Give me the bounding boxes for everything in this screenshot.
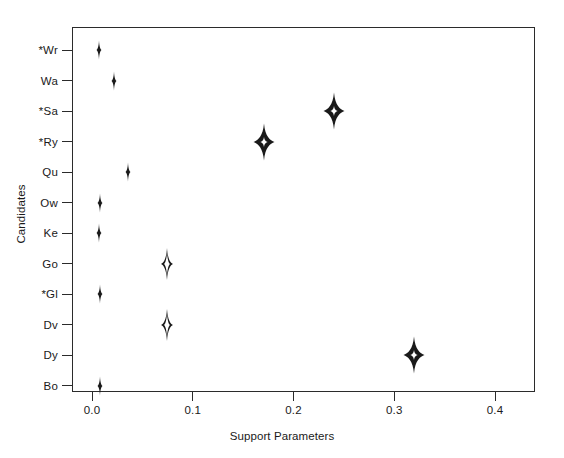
data-point-marker xyxy=(152,306,182,344)
y-axis-tick xyxy=(62,263,72,264)
y-axis-tick xyxy=(62,355,72,356)
data-point-marker xyxy=(85,282,115,307)
data-point-marker xyxy=(99,68,129,93)
y-axis-title: Candidates xyxy=(15,159,27,269)
y-axis-tick xyxy=(62,385,72,386)
data-point-marker xyxy=(152,245,182,283)
data-point-marker xyxy=(85,190,115,215)
y-axis-tick-label: Ke xyxy=(44,227,58,239)
x-axis-tick-label: 0.2 xyxy=(285,404,302,416)
y-axis-tick-label: *Gl xyxy=(41,288,58,300)
support-parameters-scatter-chart: *WrWa*Sa*RyQuOwKeGo*GlDvDyBo 0.00.10.20.… xyxy=(0,0,564,458)
data-point-marker xyxy=(85,373,115,398)
x-axis-title: Support Parameters xyxy=(0,430,564,442)
y-axis-tick-label: Dv xyxy=(44,319,58,331)
x-axis-tick xyxy=(394,392,395,401)
y-axis-tick xyxy=(62,111,72,112)
y-axis-tick-label: Ow xyxy=(40,197,58,209)
y-axis-tick xyxy=(62,172,72,173)
y-axis-tick-label: Dy xyxy=(44,349,58,361)
x-axis-tick xyxy=(495,392,496,401)
data-point-marker xyxy=(319,90,349,133)
plot-frame xyxy=(72,27,535,392)
x-axis-tick xyxy=(293,392,294,401)
y-axis-tick xyxy=(62,294,72,295)
y-axis-tick xyxy=(62,80,72,81)
x-axis-tick-label: 0.1 xyxy=(184,404,201,416)
data-point-marker xyxy=(84,38,114,63)
y-axis-tick-label: Bo xyxy=(44,380,58,392)
x-axis-tick-label: 0.4 xyxy=(487,404,504,416)
x-axis-tick-label: 0.3 xyxy=(386,404,403,416)
data-point-marker xyxy=(249,120,279,163)
y-axis-tick xyxy=(62,141,72,142)
data-point-marker xyxy=(84,221,114,246)
y-axis-tick-label: Qu xyxy=(42,166,58,178)
y-axis-tick-label: Go xyxy=(42,258,58,270)
y-axis-tick xyxy=(62,324,72,325)
data-point-marker xyxy=(399,334,429,377)
x-axis-tick xyxy=(192,392,193,401)
x-axis-tick-label: 0.0 xyxy=(84,404,101,416)
y-axis-tick-label: *Sa xyxy=(39,105,58,117)
data-point-marker xyxy=(113,160,143,185)
y-axis-tick-label: Wa xyxy=(41,75,58,87)
y-axis-tick xyxy=(62,202,72,203)
y-axis-tick xyxy=(62,50,72,51)
y-axis-tick-label: *Wr xyxy=(38,44,58,56)
y-axis-tick-label: *Ry xyxy=(39,136,58,148)
y-axis-tick xyxy=(62,233,72,234)
